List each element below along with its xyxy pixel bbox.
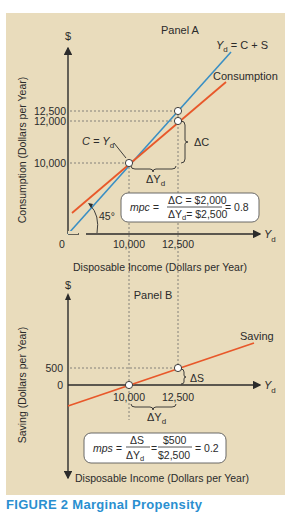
mpc-denominator: ΔYd= $2,500 [168, 208, 228, 222]
panel-b-x-label: Disposable Income (Dollars per Year) [75, 472, 249, 484]
angle-label: 45° [99, 210, 115, 222]
panel-a-dollar-label: $ [65, 30, 71, 42]
c-equals-yd-pointer [114, 143, 126, 158]
point-b-12500 [174, 364, 181, 371]
mpc-result: = 0.8 [225, 201, 249, 213]
mps-numerator-1: ΔS [130, 434, 144, 446]
panel-a-xtick-0: 0 [59, 238, 65, 250]
delta-s-label: ΔS [190, 372, 204, 384]
point-12000 [174, 117, 181, 124]
saving-label: Saving [240, 330, 274, 342]
delta-yd-label-a: ΔYd [146, 173, 165, 188]
panel-a-y-label: Consumption (Dollars per Year) [16, 77, 28, 224]
delta-yd-brace-b [131, 404, 176, 410]
panel-b-dollar-label: $ [65, 279, 71, 291]
panel-a-xtick-12500: 12,500 [162, 238, 194, 250]
figure-caption: FIGURE 2 Marginal Propensity [6, 497, 202, 512]
mps-denominator-2: $2,500 [158, 449, 190, 461]
panel-b-xtick-12500: 12,500 [162, 391, 194, 403]
line-45-label: Yd = C + S [216, 39, 268, 54]
delta-c-brace [181, 121, 188, 163]
panel-a-ytick-12000: 12,000 [34, 115, 66, 127]
panel-b-y-label: Saving (Dollars per Year) [16, 327, 28, 444]
consumption-label: Consumption [213, 70, 278, 82]
mps-numerator-2: $500 [163, 434, 187, 446]
point-12500 [174, 107, 181, 114]
delta-yd-label-b: ΔYd [147, 411, 166, 426]
panel-b-xtick-10000: 10,000 [113, 391, 145, 403]
delta-c-label: ΔC [194, 136, 209, 148]
delta-s-brace [181, 369, 186, 384]
panel-a-x-label: Disposable Income (Dollars per Year) [73, 261, 247, 273]
panel-b-ytick-500: 500 [45, 362, 63, 374]
mps-equals: = [151, 442, 157, 454]
panel-a-title: Panel A [161, 24, 200, 36]
panel-a-xtick-10000: 10,000 [113, 238, 145, 250]
delta-yd-brace-a [131, 166, 176, 172]
mpc-numerator: ΔC = $2,000 [168, 194, 227, 206]
mpc-lhs: mpc = [130, 201, 159, 213]
panel-a-ytick-10000: 10,000 [34, 157, 66, 169]
point-10000 [125, 159, 132, 166]
panel-a-x-axis-symbol: Yd [264, 228, 276, 244]
mps-result: = 0.2 [195, 442, 219, 454]
panel-b-title: Panel B [134, 289, 173, 301]
panel-b-y-axis-up-arrow [65, 293, 71, 300]
point-b-10000 [125, 381, 132, 388]
panel-b-x-axis-symbol: Yd [264, 379, 276, 395]
panel-b-ytick-0: 0 [57, 379, 63, 391]
mps-lhs: mps = [93, 442, 122, 454]
c-equals-yd-label: C = Yd [82, 135, 114, 150]
